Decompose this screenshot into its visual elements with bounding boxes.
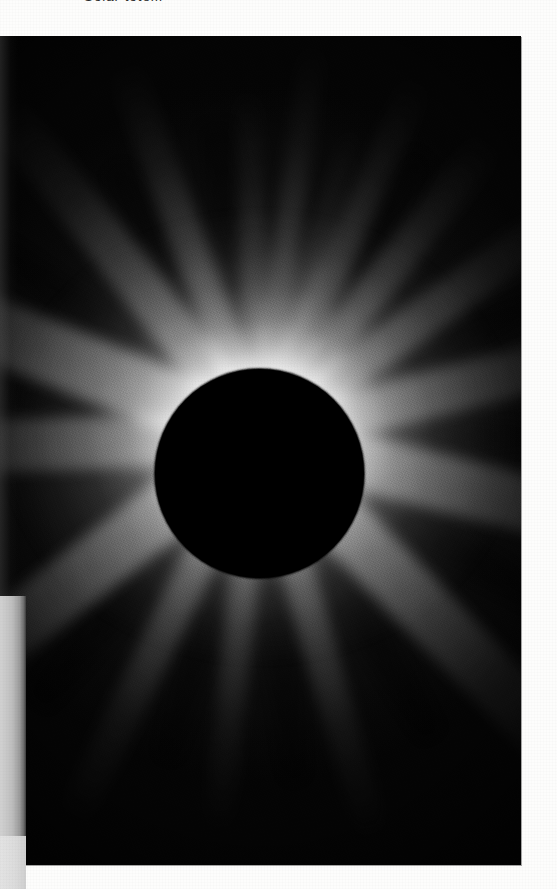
occulting-moon-disk xyxy=(155,369,364,578)
eclipse-photograph xyxy=(0,36,521,865)
figure-caption: Solar totem xyxy=(84,0,163,4)
scanned-book-page: Solar totem xyxy=(0,0,557,889)
page-gutter-shadow-lower xyxy=(0,836,26,889)
